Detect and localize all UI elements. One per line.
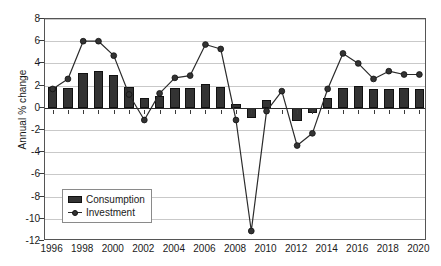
investment-data-marker — [386, 68, 392, 74]
y-axis-tick-mark — [39, 62, 44, 63]
legend-label-investment: Investment — [86, 206, 135, 219]
y-axis-tick-mark — [39, 240, 44, 241]
x-axis-tick-label: 1998 — [71, 243, 93, 254]
x-axis-tick-label: 2014 — [316, 243, 338, 254]
x-axis-tick-label: 2010 — [254, 243, 276, 254]
investment-data-marker — [141, 117, 147, 123]
legend-item-investment: Investment — [68, 206, 145, 219]
y-axis-tick-label: -8 — [6, 190, 40, 201]
investment-data-marker — [50, 86, 56, 92]
x-axis-tick-label: 2006 — [193, 243, 215, 254]
investment-data-marker — [172, 75, 178, 81]
y-axis-tick-label: 6 — [6, 35, 40, 46]
x-axis-tick-label: 2008 — [224, 243, 246, 254]
y-axis-tick-mark — [39, 40, 44, 41]
x-axis-tick-label: 2000 — [102, 243, 124, 254]
y-axis-tick-label: -2 — [6, 124, 40, 135]
y-axis-tick-mark — [39, 218, 44, 219]
chart-container: Annual % change 86420-2-4-6-8-10-12 1996… — [0, 0, 441, 266]
investment-data-marker — [203, 42, 209, 48]
y-axis-tick-label: -6 — [6, 168, 40, 179]
y-axis-tick-mark — [39, 173, 44, 174]
investment-data-marker — [65, 76, 71, 82]
investment-data-marker — [187, 73, 193, 79]
x-axis-tick-label: 2016 — [346, 243, 368, 254]
investment-data-marker — [264, 108, 270, 114]
x-axis-tick-labels: 1996199820002002200420062008201020122014… — [0, 243, 441, 263]
x-axis-tick-label: 2012 — [285, 243, 307, 254]
investment-data-marker — [416, 72, 422, 78]
y-axis-tick-label: 8 — [6, 13, 40, 24]
investment-data-marker — [401, 72, 407, 78]
y-axis-tick-label: 0 — [6, 101, 40, 112]
investment-data-marker — [80, 38, 86, 44]
legend-line-marker-icon — [68, 209, 82, 216]
chart-legend: Consumption Investment — [62, 189, 152, 223]
y-axis-tick-mark — [39, 151, 44, 152]
investment-data-marker — [248, 228, 254, 234]
investment-data-marker — [126, 92, 132, 98]
investment-data-marker — [294, 143, 300, 149]
investment-data-marker — [325, 86, 331, 92]
investment-data-marker — [279, 88, 285, 94]
investment-data-marker — [157, 90, 163, 96]
y-axis-tick-mark — [39, 18, 44, 19]
investment-data-marker — [218, 46, 224, 52]
x-axis-tick-label: 2004 — [163, 243, 185, 254]
x-axis-tick-label: 2020 — [407, 243, 429, 254]
y-axis-tick-label: 4 — [6, 57, 40, 68]
x-axis-tick-label: 1996 — [41, 243, 63, 254]
investment-data-marker — [310, 130, 316, 136]
y-axis-tick-label: -4 — [6, 146, 40, 157]
y-axis-tick-mark — [39, 107, 44, 108]
y-axis-tick-label: 2 — [6, 79, 40, 90]
investment-data-marker — [233, 117, 239, 123]
investment-data-marker — [371, 76, 377, 82]
y-axis-tick-label: -10 — [6, 212, 40, 223]
legend-item-consumption: Consumption — [68, 193, 145, 206]
investment-data-marker — [355, 61, 361, 67]
x-axis-tick-label: 2018 — [377, 243, 399, 254]
investment-data-marker — [111, 53, 117, 59]
y-axis-tick-mark — [39, 85, 44, 86]
y-axis-tick-mark — [39, 196, 44, 197]
y-axis-tick-mark — [39, 129, 44, 130]
investment-data-marker — [96, 38, 102, 44]
x-axis-tick-label: 2002 — [132, 243, 154, 254]
investment-data-marker — [340, 51, 346, 57]
legend-label-consumption: Consumption — [86, 193, 145, 206]
y-axis-tick-labels: 86420-2-4-6-8-10-12 — [6, 0, 40, 266]
legend-bar-swatch-icon — [68, 196, 82, 203]
